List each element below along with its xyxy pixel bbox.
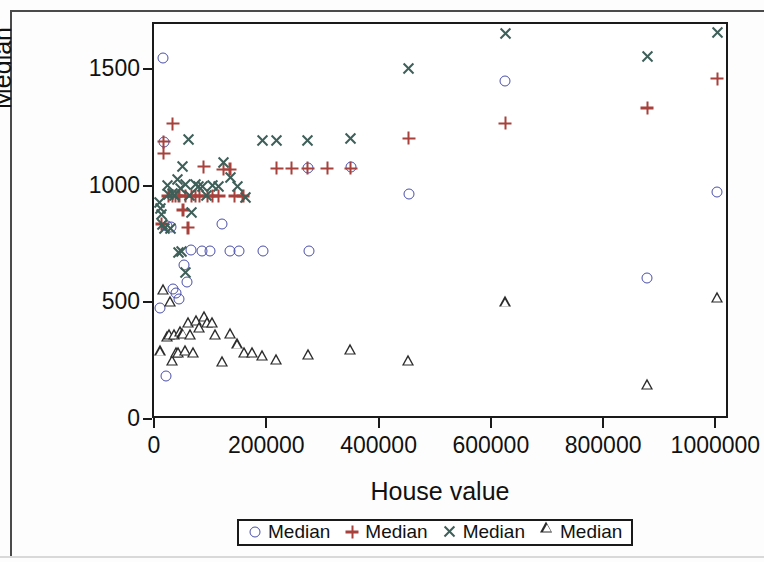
data-point-circle-marker [186, 245, 197, 256]
legend-label: Median [560, 521, 622, 543]
data-point-x-marker [196, 180, 209, 193]
data-point-triangle-marker [165, 295, 177, 306]
data-point-triangle-marker [154, 345, 166, 356]
scatter-chart: Median 050010001500 02000004000006000008… [0, 0, 764, 562]
data-point-plus-marker [237, 190, 250, 203]
data-point-triangle-marker [202, 317, 214, 328]
data-point-triangle-marker [216, 355, 228, 366]
data-point-x-marker [192, 180, 205, 193]
data-point-triangle-marker [210, 328, 222, 339]
y-tick-mark [143, 185, 152, 187]
data-point-x-marker [161, 179, 174, 192]
legend-item-3[interactable]: Median [540, 521, 622, 543]
chart-legend: MedianMedianMedianMedian [237, 519, 633, 546]
x-tick-mark [265, 418, 267, 428]
data-point-plus-marker [206, 190, 219, 203]
data-point-circle-marker [158, 136, 169, 147]
data-point-plus-marker [228, 190, 241, 203]
data-point-x-marker [206, 179, 219, 192]
legend-label: Median [268, 521, 330, 543]
data-point-circle-marker [250, 527, 261, 538]
data-point-triangle-marker [231, 338, 243, 349]
data-point-plus-marker [301, 162, 314, 175]
data-point-plus-marker [499, 117, 512, 130]
x-tick-label: 1000000 [671, 432, 761, 459]
legend-item-2[interactable]: Median [443, 521, 525, 543]
data-point-plus-marker [201, 190, 214, 203]
data-point-x-marker [402, 62, 415, 75]
data-point-plus-marker [169, 190, 182, 203]
x-tick-label: 800000 [565, 432, 642, 459]
data-point-circle-marker [205, 246, 216, 257]
data-point-x-marker [154, 202, 167, 215]
data-point-x-marker [153, 197, 166, 210]
data-point-plus-marker [285, 162, 298, 175]
legend-plus-icon [345, 525, 359, 539]
x-tick-label: 400000 [340, 432, 417, 459]
data-point-x-marker [239, 191, 252, 204]
data-point-circle-marker [170, 287, 181, 298]
plot-inner [154, 24, 730, 420]
data-point-triangle-marker [161, 331, 173, 342]
x-tick-mark [602, 418, 604, 428]
data-point-x-marker [270, 134, 283, 147]
data-point-plus-marker [176, 204, 189, 217]
data-point-plus-marker [346, 526, 359, 539]
x-tick-label: 0 [148, 432, 161, 459]
data-point-circle-marker [217, 219, 228, 230]
data-point-triangle-marker [187, 347, 199, 358]
x-tick-mark [153, 418, 155, 428]
data-point-x-marker [189, 178, 202, 191]
data-point-x-marker [175, 245, 188, 258]
data-point-plus-marker [157, 135, 170, 148]
data-point-plus-marker [166, 117, 179, 130]
data-point-plus-marker [321, 162, 334, 175]
data-point-plus-marker [224, 163, 237, 176]
data-point-plus-marker [162, 190, 175, 203]
y-tick-label: 500 [48, 288, 140, 315]
data-point-triangle-marker [167, 354, 179, 365]
data-point-triangle-marker [194, 321, 206, 332]
data-point-triangle-marker [198, 311, 210, 322]
x-tick-mark [714, 418, 716, 428]
data-point-triangle-marker [271, 353, 283, 364]
legend-triangle-icon [540, 525, 554, 539]
legend-label: Median [463, 521, 525, 543]
data-point-circle-marker [167, 284, 178, 295]
data-point-circle-marker [157, 52, 168, 63]
legend-item-1[interactable]: Median [345, 521, 427, 543]
data-point-triangle-marker [163, 328, 175, 339]
data-point-plus-marker [212, 190, 225, 203]
data-point-x-marker [256, 134, 269, 147]
data-point-x-marker [179, 266, 192, 279]
data-point-triangle-marker [190, 314, 202, 325]
data-point-x-marker [344, 132, 357, 145]
data-point-triangle-marker [172, 346, 184, 357]
data-point-plus-marker [197, 160, 210, 173]
data-point-plus-marker [155, 218, 168, 231]
data-point-circle-marker [712, 186, 723, 197]
data-point-x-marker [168, 190, 181, 203]
data-point-circle-marker [181, 276, 192, 287]
data-point-triangle-marker [206, 317, 218, 328]
data-point-circle-marker [642, 272, 653, 283]
y-tick-mark [143, 418, 152, 420]
data-point-plus-marker [344, 162, 357, 175]
data-point-plus-marker [193, 190, 206, 203]
x-tick-label: 600000 [452, 432, 529, 459]
legend-item-0[interactable]: Median [248, 521, 330, 543]
data-point-plus-marker [179, 190, 192, 203]
data-point-x-marker [155, 208, 168, 221]
data-point-plus-marker [166, 190, 179, 203]
data-point-circle-marker [257, 246, 268, 257]
data-point-x-marker [172, 246, 185, 259]
data-point-circle-marker [161, 371, 172, 382]
data-point-triangle-marker [541, 522, 553, 533]
data-point-circle-marker [155, 303, 166, 314]
data-point-x-marker [212, 180, 225, 193]
x-axis-title: House value [152, 477, 728, 506]
data-point-plus-marker [173, 190, 186, 203]
data-point-plus-marker [157, 147, 170, 160]
data-point-plus-marker [270, 162, 283, 175]
data-point-triangle-marker [169, 329, 181, 340]
